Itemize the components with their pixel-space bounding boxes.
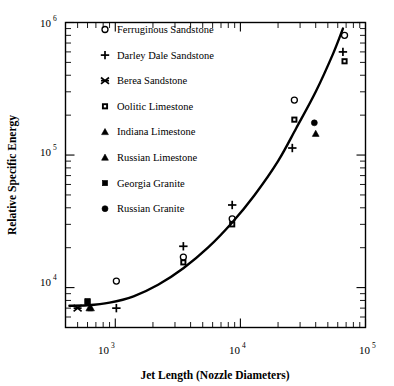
marker-plus — [339, 48, 347, 56]
marker-small-filled-square — [181, 260, 185, 264]
y-axis-title: Relative Specific Energy — [6, 115, 19, 235]
marker-small-filled-square — [103, 104, 107, 108]
series-georgia-granite — [85, 299, 90, 304]
y-tick-labels: 10 4 10 5 10 6 — [40, 14, 57, 288]
marker-open-circle — [102, 27, 108, 33]
y-tick-exponent-1000000: 6 — [53, 14, 57, 23]
y-tick-label-10000: 10 — [40, 276, 52, 288]
series-russian-granite — [311, 120, 317, 126]
y-axis-ticks — [66, 23, 366, 328]
legend-item-georgia-granite: Georgia Granite — [102, 178, 185, 189]
marker-plus — [101, 51, 109, 59]
marker-filled-triangle — [312, 130, 319, 136]
marker-plus — [228, 201, 236, 209]
legend-item-russian-granite: Russian Granite — [102, 203, 185, 214]
marker-filled-triangle — [102, 129, 109, 135]
marker-filled-square — [102, 181, 107, 186]
marker-open-circle — [180, 254, 186, 260]
marker-filled-triangle — [102, 154, 109, 160]
legend-label: Russian Limestone — [117, 152, 198, 163]
marker-open-circle — [113, 278, 119, 284]
x-tick-labels: 10 3 10 4 10 5 — [98, 341, 376, 356]
marker-filled-circle — [102, 206, 108, 212]
marker-plus — [179, 242, 187, 250]
x-axis-title: Jet Length (Nozzle Diameters) — [140, 369, 289, 382]
chart-figure: 10 3 10 4 10 5 10 4 10 5 10 6 Jet Length… — [0, 0, 394, 386]
x-tick-label-10000: 10 — [229, 344, 241, 356]
legend-item-oolitic-limestone: Oolitic Limestone — [103, 101, 194, 112]
legend-label: Darley Dale Sandstone — [117, 50, 214, 61]
legend-item-berea-sandstone: Berea Sandstone — [101, 75, 188, 86]
marker-small-filled-square — [342, 59, 346, 63]
legend-item-ferruginous-sandstone: Ferruginous Sandstone — [102, 24, 214, 35]
data-markers — [74, 32, 348, 312]
marker-filled-square — [85, 299, 90, 304]
marker-plus — [288, 144, 296, 152]
y-tick-label-100000: 10 — [40, 146, 52, 158]
x-tick-exponent-10000: 4 — [242, 341, 246, 350]
legend: Ferruginous SandstoneDarley Dale Sandsto… — [101, 24, 214, 214]
x-tick-label-1000: 10 — [98, 344, 110, 356]
legend-item-darley-dale-sandstone: Darley Dale Sandstone — [101, 50, 214, 61]
x-tick-exponent-100000: 5 — [372, 341, 376, 350]
legend-label: Georgia Granite — [117, 178, 185, 189]
x-tick-label-100000: 10 — [359, 344, 371, 356]
y-tick-label-1000000: 10 — [40, 17, 52, 29]
scatter-plot-canvas: 10 3 10 4 10 5 10 4 10 5 10 6 Jet Length… — [0, 0, 394, 386]
marker-filled-circle — [311, 120, 317, 126]
marker-open-circle — [342, 32, 348, 38]
marker-cross-star — [101, 78, 109, 84]
legend-label: Oolitic Limestone — [117, 101, 193, 112]
legend-item-russian-limestone: Russian Limestone — [102, 152, 198, 163]
legend-label: Indiana Limestone — [117, 126, 196, 137]
x-axis-ticks — [66, 23, 366, 328]
legend-label: Berea Sandstone — [117, 75, 188, 86]
legend-item-indiana-limestone: Indiana Limestone — [102, 126, 196, 137]
marker-small-filled-square — [292, 118, 296, 122]
marker-small-filled-square — [230, 222, 234, 226]
fit-curve — [69, 29, 342, 306]
plot-frame — [66, 23, 366, 328]
marker-plus — [112, 304, 120, 312]
x-tick-exponent-1000: 3 — [111, 341, 115, 350]
legend-label: Ferruginous Sandstone — [117, 24, 214, 35]
y-tick-exponent-100000: 5 — [53, 143, 57, 152]
marker-open-circle — [291, 97, 297, 103]
legend-label: Russian Granite — [117, 203, 185, 214]
y-tick-exponent-10000: 4 — [53, 273, 57, 282]
